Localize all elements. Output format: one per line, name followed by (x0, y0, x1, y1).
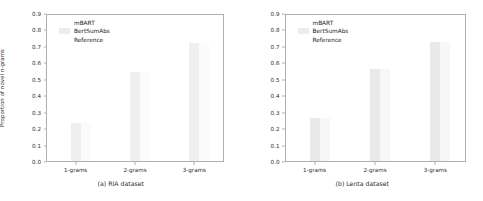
x-tick-label: 2-grams (123, 167, 146, 173)
legend-swatch-icon-bertsumabs (298, 28, 309, 34)
bar (61, 123, 71, 161)
y-tick-label: 0.7 (32, 44, 41, 50)
legend-swatch-icon-mbart (59, 20, 70, 26)
bar (370, 69, 380, 161)
y-tick-label: 0.5 (271, 77, 280, 83)
bar (140, 72, 150, 161)
panel-caption-b: (b) Lenta dataset (242, 180, 483, 187)
panel-caption-a: (a) RIA dataset (0, 180, 242, 187)
bar (199, 43, 209, 161)
legend-panel-b: mBART BertSumAbs Reference (296, 17, 353, 45)
legend-label-bertsumabs: BertSumAbs (74, 28, 110, 34)
legend-swatch-icon-reference (59, 37, 70, 43)
y-tick-label: 0.1 (271, 143, 280, 149)
legend-swatch-icon-reference (298, 37, 309, 43)
x-tick-mark (135, 162, 136, 165)
x-tick-mark (435, 162, 436, 165)
x-tick-label: 1-grams (64, 167, 87, 173)
y-tick-label: 0.8 (271, 27, 280, 33)
legend-entry-reference: Reference (298, 36, 349, 43)
chart-panel-lenta: 0.00.10.20.30.40.50.60.70.80.9 1-grams2-… (242, 0, 483, 201)
bar (179, 43, 189, 161)
bar (430, 42, 440, 161)
bar-group (405, 15, 465, 161)
y-tick-label: 0.4 (271, 93, 280, 99)
chart-panel-ria: Proportion of novel n-grams 0.00.10.20.3… (0, 0, 242, 201)
y-tick-label: 0.3 (32, 110, 41, 116)
x-axis-ticks-panel-b: 1-grams2-grams3-grams (285, 162, 466, 176)
legend-entry-bertsumabs: BertSumAbs (298, 28, 349, 35)
x-tick-label: 3-grams (183, 167, 206, 173)
y-tick-label: 0.9 (271, 11, 280, 17)
bar (71, 123, 81, 161)
x-tick-mark (314, 162, 315, 165)
bar (81, 123, 91, 161)
y-tick-label: 0.6 (271, 60, 280, 66)
bar (120, 72, 130, 161)
y-tick-label: 0.2 (271, 126, 280, 132)
bar (300, 118, 310, 161)
y-axis-ticks-panel-b: 0.00.10.20.30.40.50.60.70.80.9 (242, 14, 285, 162)
legend-swatch-icon-mbart (298, 20, 309, 26)
y-tick-label: 0.6 (32, 60, 41, 66)
y-tick-label: 0.8 (32, 27, 41, 33)
legend-entry-reference: Reference (59, 36, 110, 43)
bar-group (164, 15, 223, 161)
y-tick-label: 0.1 (32, 143, 41, 149)
y-tick-label: 0.3 (271, 110, 280, 116)
legend-label-bertsumabs: BertSumAbs (313, 28, 349, 34)
y-tick-label: 0.9 (32, 11, 41, 17)
figure-two-panel-bar-charts: Proportion of novel n-grams 0.00.10.20.3… (0, 0, 483, 201)
y-tick-label: 0.0 (32, 159, 41, 165)
y-tick-label: 0.4 (32, 93, 41, 99)
bar (440, 42, 450, 161)
x-tick-label: 2-grams (363, 167, 386, 173)
y-axis-ticks-panel-a: 0.00.10.20.30.40.50.60.70.80.9 (0, 14, 46, 162)
legend-panel-a: mBART BertSumAbs Reference (57, 17, 114, 45)
x-axis-ticks-panel-a: 1-grams2-grams3-grams (46, 162, 224, 176)
y-tick-label: 0.7 (271, 44, 280, 50)
y-tick-label: 0.0 (271, 159, 280, 165)
x-tick-label: 3-grams (424, 167, 447, 173)
bar (320, 118, 330, 161)
x-tick-mark (375, 162, 376, 165)
y-tick-label: 0.2 (32, 126, 41, 132)
x-tick-label: 1-grams (303, 167, 326, 173)
x-tick-mark (194, 162, 195, 165)
bar (380, 69, 390, 161)
legend-swatch-icon-bertsumabs (59, 28, 70, 34)
legend-label-mbart: mBART (74, 20, 95, 26)
legend-label-mbart: mBART (313, 20, 334, 26)
legend-entry-bertsumabs: BertSumAbs (59, 28, 110, 35)
legend-entry-mbart: mBART (59, 19, 110, 26)
bar (420, 42, 430, 161)
bar (310, 118, 320, 161)
bar-group (345, 15, 405, 161)
legend-entry-mbart: mBART (298, 19, 349, 26)
bar-group (106, 15, 165, 161)
bar (130, 72, 140, 161)
legend-label-reference: Reference (313, 37, 342, 43)
y-tick-label: 0.5 (32, 77, 41, 83)
bar (360, 69, 370, 161)
x-tick-mark (75, 162, 76, 165)
legend-label-reference: Reference (74, 37, 103, 43)
bar (189, 43, 199, 161)
